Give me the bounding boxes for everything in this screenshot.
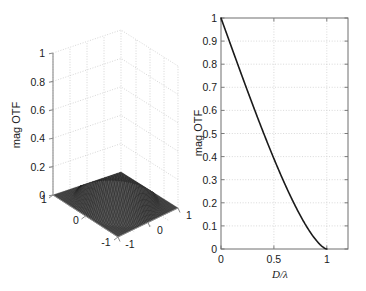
surface-ytick-0: 0 bbox=[157, 224, 163, 236]
surface-ztick-1: 0.2 bbox=[30, 161, 45, 173]
line-xtick-05: 0.5 bbox=[267, 253, 282, 265]
line-yaxis-label: mag OTF bbox=[192, 109, 204, 156]
surface-plot-panel: mag OTF bbox=[0, 0, 190, 291]
figure-container: mag OTF bbox=[0, 0, 366, 291]
line-plot-svg: 1 0.9 0.8 0.7 0.6 0.5 0.4 0.3 0.2 0.1 0 … bbox=[190, 0, 366, 291]
surface-plot-svg: mag OTF bbox=[0, 0, 190, 291]
line-ytick-5: 0.5 bbox=[202, 128, 217, 140]
surface-ztick-3: 0.6 bbox=[30, 104, 45, 116]
line-ytick-10: 1 bbox=[211, 12, 217, 24]
surface-xtick-0: 0 bbox=[73, 214, 79, 226]
line-ytick-4: 0.4 bbox=[202, 151, 217, 163]
line-xtick-1: 1 bbox=[324, 253, 330, 265]
surface-zaxis-label: mag OTF bbox=[10, 101, 22, 148]
surface-ztick-labels: 1 0.8 0.6 0.4 0.2 0 bbox=[30, 47, 45, 201]
surface-mesh bbox=[53, 61, 178, 237]
line-ytick-labels: 1 0.9 0.8 0.7 0.6 0.5 0.4 0.3 0.2 0.1 0 bbox=[202, 12, 217, 255]
surface-ztick-4: 0.8 bbox=[30, 76, 45, 88]
line-xaxis-label: D/λ bbox=[271, 268, 288, 280]
line-plot-panel: 1 0.9 0.8 0.7 0.6 0.5 0.4 0.3 0.2 0.1 0 … bbox=[190, 0, 366, 291]
surface-ztick-2: 0.4 bbox=[30, 132, 45, 144]
line-ytick-9: 0.9 bbox=[202, 35, 217, 47]
line-ytick-2: 0.2 bbox=[202, 197, 217, 209]
line-ytick-8: 0.8 bbox=[202, 58, 217, 70]
line-ytick-1: 0.1 bbox=[202, 220, 217, 232]
line-xtick-labels: 0 0.5 1 bbox=[218, 253, 330, 265]
surface-xtick-neg1: -1 bbox=[101, 236, 110, 248]
line-ytick-0: 0 bbox=[211, 243, 217, 255]
line-ytick-6: 0.6 bbox=[202, 104, 217, 116]
line-ytick-7: 0.7 bbox=[202, 81, 217, 93]
surface-ytick-neg1: -1 bbox=[125, 238, 134, 250]
surface-xtick-1: 1 bbox=[41, 193, 47, 205]
line-xtick-0: 0 bbox=[218, 253, 224, 265]
surface-ztick-5: 1 bbox=[39, 47, 45, 59]
line-ytick-3: 0.3 bbox=[202, 174, 217, 186]
surface-zaxis bbox=[49, 53, 53, 196]
